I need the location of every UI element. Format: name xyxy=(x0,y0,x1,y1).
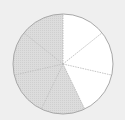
fraction-circle-diagram xyxy=(0,0,125,120)
